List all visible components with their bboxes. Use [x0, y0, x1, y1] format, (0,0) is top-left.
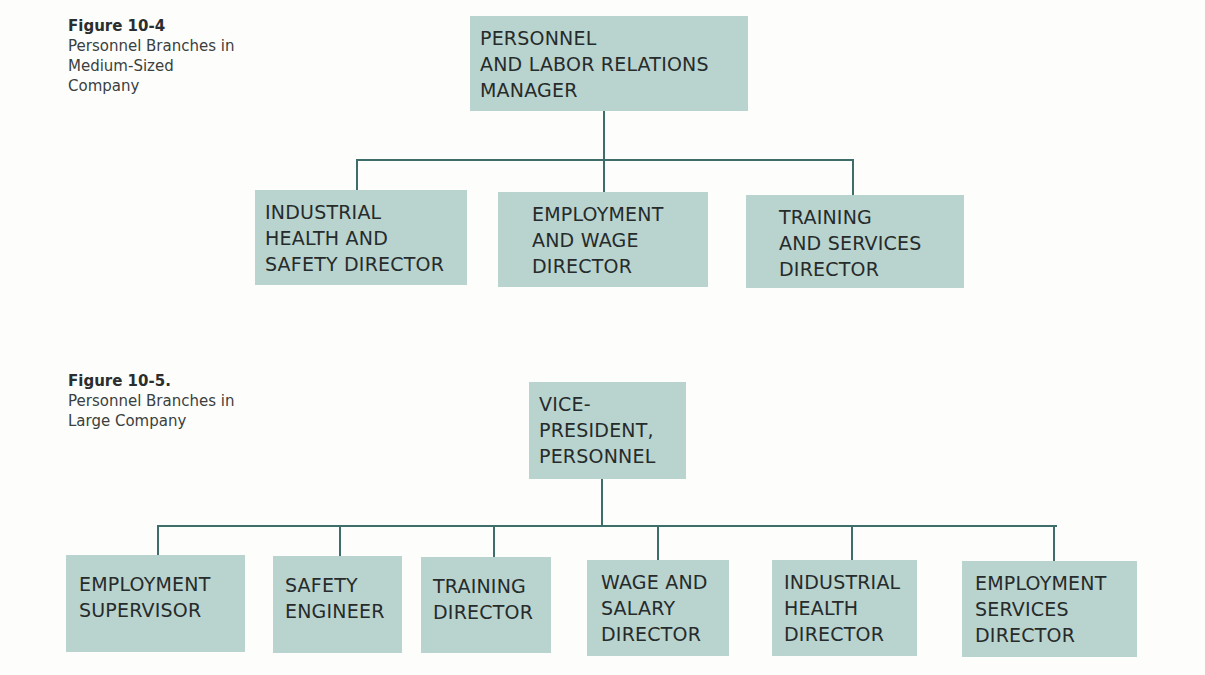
org-node-child: WAGE AND SALARY DIRECTOR — [587, 560, 729, 656]
connector-line — [852, 159, 854, 195]
connector-line — [601, 479, 603, 526]
org-node-root: VICE- PRESIDENT, PERSONNEL — [529, 382, 686, 479]
connector-line — [493, 525, 495, 557]
org-node-child: SAFETY ENGINEER — [273, 556, 402, 653]
org-node-child: EMPLOYMENT SUPERVISOR — [66, 555, 245, 652]
connector-line — [356, 159, 358, 190]
connector-line — [157, 525, 1057, 527]
connector-line — [1053, 525, 1055, 561]
figure-10-4-caption: Figure 10-4 Personnel Branches in Medium… — [68, 16, 234, 96]
figure-description: Personnel Branches in Medium-Sized Compa… — [68, 36, 234, 96]
connector-line — [339, 525, 341, 556]
org-node-child: INDUSTRIAL HEALTH DIRECTOR — [772, 560, 917, 656]
connector-line — [157, 525, 159, 555]
figure-label: Figure 10-4 — [68, 16, 234, 36]
connector-line — [356, 159, 854, 161]
figure-description: Personnel Branches in Large Company — [68, 391, 234, 431]
connector-line — [603, 111, 605, 193]
org-node-child: TRAINING DIRECTOR — [421, 557, 551, 653]
org-node-root: PERSONNEL AND LABOR RELATIONS MANAGER — [470, 16, 748, 111]
connector-line — [851, 525, 853, 560]
connector-line — [657, 525, 659, 560]
org-node-child: TRAINING AND SERVICES DIRECTOR — [746, 195, 964, 288]
figure-10-5-caption: Figure 10-5. Personnel Branches in Large… — [68, 371, 234, 431]
org-node-child: EMPLOYMENT AND WAGE DIRECTOR — [498, 192, 708, 287]
org-node-child: INDUSTRIAL HEALTH AND SAFETY DIRECTOR — [255, 190, 467, 285]
figure-label: Figure 10-5. — [68, 371, 234, 391]
org-node-child: EMPLOYMENT SERVICES DIRECTOR — [962, 561, 1137, 657]
